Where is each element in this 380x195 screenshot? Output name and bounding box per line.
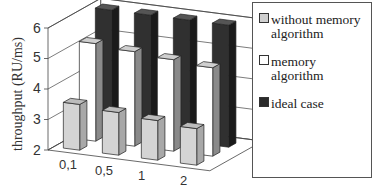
x-tick-0-5: 0,5 bbox=[95, 163, 113, 178]
legend-item-ideal-case: ideal case bbox=[259, 97, 324, 111]
x-tick-1: 1 bbox=[138, 168, 145, 183]
y-tick-5: 5 bbox=[33, 49, 41, 65]
bar-0-1 bbox=[102, 106, 126, 155]
y-tick-4: 4 bbox=[33, 80, 41, 96]
legend-item-memory: memory algorithm bbox=[259, 55, 324, 83]
bar-0-2 bbox=[141, 114, 165, 160]
y-tick-6: 6 bbox=[33, 20, 41, 36]
legend: without memory algorithm memory algorith… bbox=[252, 2, 372, 178]
x-tick-2: 2 bbox=[180, 173, 187, 188]
y-tick-2: 2 bbox=[33, 142, 41, 158]
bar-0-0 bbox=[63, 98, 87, 150]
bar-0-3 bbox=[180, 122, 204, 165]
y-tick-3: 3 bbox=[33, 111, 41, 127]
y-axis-label: throughput (RU/ms) bbox=[10, 24, 26, 164]
legend-swatch-dark bbox=[259, 97, 269, 107]
legend-swatch-gray bbox=[259, 13, 269, 23]
legend-item-without-memory: without memory algorithm bbox=[259, 13, 361, 41]
x-tick-0-1: 0,1 bbox=[59, 157, 77, 172]
legend-swatch-white bbox=[259, 55, 269, 65]
